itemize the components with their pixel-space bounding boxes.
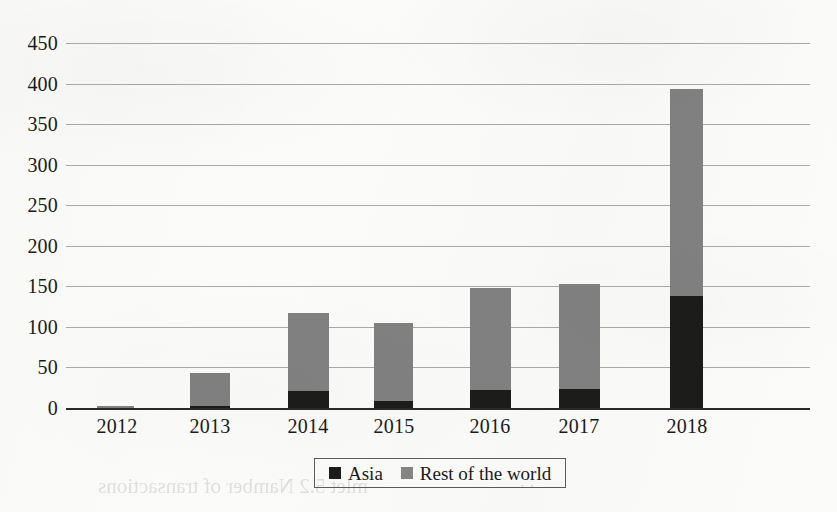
y-tick-label-100: 100 (2, 317, 58, 337)
legend-swatch-icon (401, 467, 413, 479)
bar-segment-asia-2013 (190, 406, 230, 408)
legend-label: Rest of the world (420, 464, 551, 483)
x-tick-label-2015: 2015 (364, 414, 424, 438)
y-tick-label-150: 150 (2, 276, 58, 296)
bar-group-2016[interactable] (470, 43, 511, 408)
x-axis-baseline (66, 408, 810, 410)
y-axis-tick-labels: 050100150200250300350400450 (0, 43, 58, 408)
chart-legend: AsiaRest of the world (314, 458, 566, 488)
bar-segment-rest-of-the-world-2012 (97, 406, 134, 408)
y-tick-label-0: 0 (2, 398, 58, 418)
bar-group-2018[interactable] (670, 43, 703, 408)
y-tick-label-400: 400 (2, 74, 58, 94)
bar-segment-rest-of-the-world-2016 (470, 288, 511, 390)
legend-label: Asia (348, 464, 383, 483)
bar-segment-asia-2016 (470, 390, 511, 408)
bar-segment-asia-2015 (374, 401, 413, 408)
legend-entry-rest-of-the-world[interactable]: Rest of the world (401, 464, 551, 483)
x-tick-label-2017: 2017 (549, 414, 609, 438)
bar-segment-rest-of-the-world-2018 (670, 89, 703, 296)
legend-entry-asia[interactable]: Asia (329, 464, 383, 483)
bar-group-2017[interactable] (559, 43, 600, 408)
y-tick-label-200: 200 (2, 236, 58, 256)
bar-segment-rest-of-the-world-2017 (559, 284, 600, 389)
bar-segment-asia-2017 (559, 389, 600, 408)
bar-group-2013[interactable] (190, 43, 230, 408)
plot-area (66, 43, 810, 408)
bar-segment-rest-of-the-world-2013 (190, 373, 230, 406)
y-tick-label-450: 450 (2, 33, 58, 53)
bar-segment-rest-of-the-world-2015 (374, 323, 413, 401)
bar-segment-asia-2014 (288, 391, 329, 408)
bar-group-2015[interactable] (374, 43, 413, 408)
legend-swatch-icon (329, 467, 341, 479)
bar-group-2012[interactable] (97, 43, 134, 408)
y-tick-label-350: 350 (2, 114, 58, 134)
x-tick-label-2018: 2018 (657, 414, 717, 438)
y-tick-label-250: 250 (2, 195, 58, 215)
x-tick-label-2016: 2016 (460, 414, 520, 438)
bar-segment-rest-of-the-world-2014 (288, 313, 329, 391)
x-axis-tick-labels: 2012201320142015201620172018 (66, 414, 810, 444)
stacked-bar-chart-figure: mlet 5.2 Namber of transactions . . 0501… (0, 0, 837, 512)
bar-group-2014[interactable] (288, 43, 329, 408)
y-tick-label-300: 300 (2, 155, 58, 175)
y-tick-label-50: 50 (2, 357, 58, 377)
x-tick-label-2013: 2013 (180, 414, 240, 438)
bar-segment-asia-2018 (670, 296, 703, 408)
x-tick-label-2012: 2012 (87, 414, 147, 438)
x-tick-label-2014: 2014 (278, 414, 338, 438)
